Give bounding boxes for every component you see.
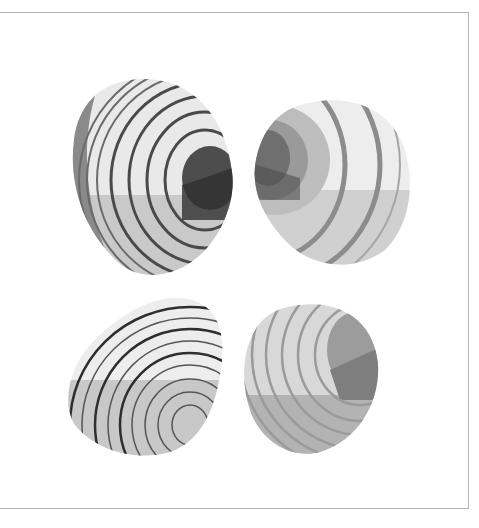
shell-bottom-right (235, 238, 479, 472)
clam-shells-illustration (0, 0, 479, 528)
